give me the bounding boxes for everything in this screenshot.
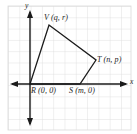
vertex-label-T: T (n, p) [97, 55, 121, 64]
vertex-label-V: V (q, r) [44, 13, 68, 22]
coordinate-plane [0, 0, 137, 134]
vertex-label-R: R (0, 0) [31, 86, 56, 95]
y-axis-label: y [25, 2, 28, 10]
grid-background [8, 6, 131, 130]
x-axis-label: x [130, 78, 133, 86]
geometry-figure: V (q, r) T (n, p) R (0, 0) S (m, 0) x y [0, 0, 137, 134]
vertex-label-S: S (m, 0) [69, 86, 95, 95]
